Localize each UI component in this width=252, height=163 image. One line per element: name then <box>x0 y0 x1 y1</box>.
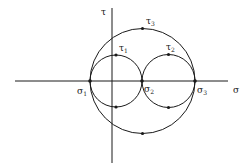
tau1-label: τ1 <box>119 43 128 54</box>
point-tau2 <box>167 53 170 56</box>
tau2-label: τ2 <box>166 42 175 53</box>
tau3-label: τ3 <box>146 16 155 27</box>
point-tau3 <box>141 27 144 30</box>
tau-axis-label: τ <box>101 7 106 17</box>
mohr-circle-diagram: τ σ σ1 σ2 σ3 τ3 τ1 τ2 <box>0 0 252 163</box>
sigma-axis-label: σ <box>233 85 239 95</box>
point-tau1 <box>114 53 117 56</box>
point-sigma3 <box>193 79 197 83</box>
sigma2-label: σ2 <box>144 84 154 95</box>
point-sigma1 <box>88 79 92 83</box>
sigma3-label: σ3 <box>197 85 207 96</box>
point-tau2-bottom <box>167 106 170 109</box>
sigma1-label: σ1 <box>77 86 87 97</box>
point-sigma2 <box>140 79 144 83</box>
point-tau3-bottom <box>141 132 144 135</box>
point-tau1-bottom <box>114 105 117 108</box>
